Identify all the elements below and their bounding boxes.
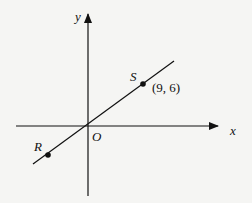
point-s-coords: (9, 6) — [152, 80, 180, 95]
point-r-label: R — [33, 139, 42, 154]
origin-label: O — [92, 129, 102, 144]
y-axis-label: y — [73, 9, 81, 24]
x-axis-label: x — [229, 123, 236, 138]
coordinate-diagram: y x O S (9, 6) R — [0, 0, 252, 203]
point-r — [45, 152, 51, 158]
point-s-label: S — [130, 69, 137, 84]
line-rs — [33, 61, 174, 164]
point-s — [140, 81, 146, 87]
